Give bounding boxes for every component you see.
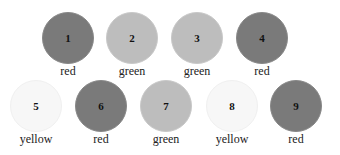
circle-item-4: 4red [232,12,292,78]
circle-label: red [38,64,98,78]
circle-item-5: 5yellow [6,80,66,146]
circle-green: 7 [140,80,192,132]
circle-green: 2 [106,12,158,64]
circle-green: 3 [171,12,223,64]
circle-yellow: 8 [206,80,258,132]
circle-item-6: 6red [71,80,131,146]
circle-yellow: 5 [10,80,62,132]
circle-item-1: 1red [38,12,98,78]
circle-red: 1 [42,12,94,64]
circle-item-2: 2green [102,12,162,78]
circle-item-3: 3green [167,12,227,78]
circle-item-7: 7green [136,80,196,146]
circle-label: green [167,64,227,78]
circle-label: yellow [6,132,66,146]
circle-label: green [136,132,196,146]
circle-item-9: 9red [266,80,326,146]
circle-label: red [232,64,292,78]
circle-item-8: 8yellow [202,80,262,146]
circle-label: red [71,132,131,146]
circle-red: 4 [236,12,288,64]
circle-red: 9 [270,80,322,132]
circle-label: yellow [202,132,262,146]
circle-label: red [266,132,326,146]
circle-red: 6 [75,80,127,132]
circle-label: green [102,64,162,78]
